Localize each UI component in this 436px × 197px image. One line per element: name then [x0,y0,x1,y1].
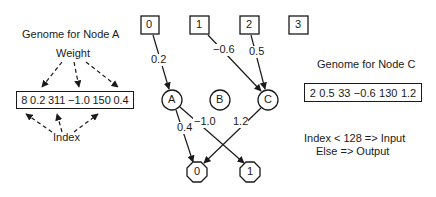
input-label-2: 2 [246,18,252,30]
genome-a-sequence: 8 0.2 311 −1.0 150 0.4 [16,91,134,109]
input-label-1: 1 [196,18,202,30]
input-label-0: 0 [146,18,152,30]
rule-line-1: Index < 128 => Input [304,132,405,144]
index-label: Index [53,131,80,143]
edge-weight-A-output1: −1.0 [194,115,216,127]
genome-a-value: 311 [48,94,66,106]
genome-c-value: 1.2 [401,87,416,99]
input-label-3: 3 [295,18,301,30]
genome-a-value: 0.4 [113,94,128,106]
weight-label: Weight [56,47,90,59]
input-nodes [141,16,308,34]
hidden-label-B: B [216,93,223,105]
index-arrows [26,114,98,132]
hidden-label-A: A [168,93,175,105]
edge-weight-A-output0: 0.4 [177,121,192,133]
output-label-1: 1 [247,165,253,177]
genome-c-value: 2 [310,87,316,99]
genome-c-title: Genome for Node C [317,58,415,70]
genome-c-value: 33 [338,87,350,99]
genome-c-value: 0.5 [319,87,334,99]
edge-weight-input0-A: 0.2 [151,53,166,65]
genome-a-value: 150 [92,94,110,106]
genome-a-title: Genome for Node A [22,28,119,40]
edge-input2-C [251,35,265,89]
edge-weight-input2-C: 0.5 [249,45,264,57]
edge-A-output0 [176,110,193,162]
output-label-0: 0 [194,165,200,177]
genome-a-value: 8 [21,94,27,106]
weight-arrows [42,62,118,87]
genome-c-value: 130 [379,87,397,99]
genome-a-value: 0.2 [30,94,45,106]
genome-c-sequence: 2 0.5 33 −0.6 130 1.2 [304,83,422,102]
genome-a-value: −1.0 [68,94,90,106]
genome-c-value: −0.6 [354,87,376,99]
rule-line-2: Else => Output [316,145,389,157]
hidden-label-C: C [264,93,272,105]
edge-weight-input1-C: −0.6 [213,43,235,55]
edge-weight-C-output0: 1.2 [233,115,248,127]
